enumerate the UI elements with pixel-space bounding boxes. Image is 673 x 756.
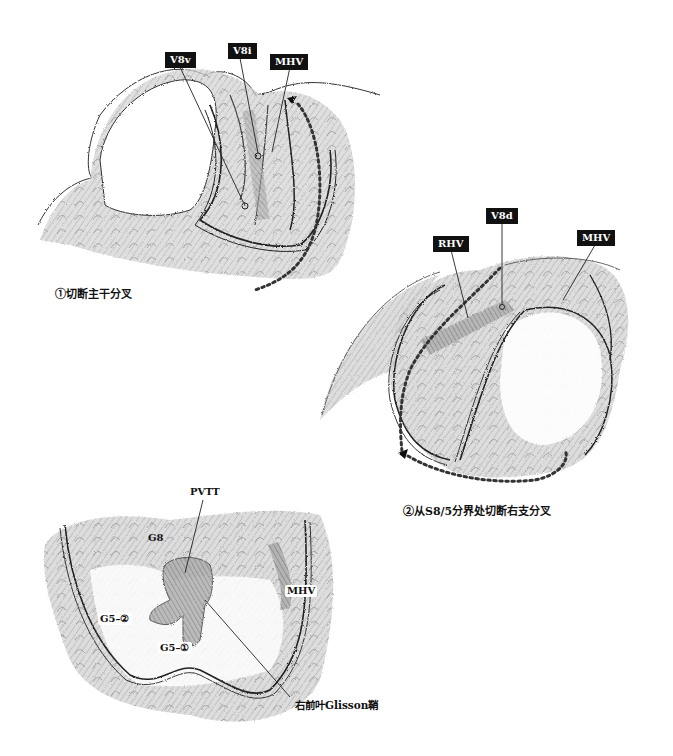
figure3-drawing — [44, 511, 333, 722]
label-mhv-fig2: MHV — [577, 230, 615, 246]
label-mhv-fig1: MHV — [270, 54, 308, 70]
label-v8v: V8v — [165, 52, 196, 68]
figure2-caption: ②从S8/5分界处切断右支分叉 — [403, 502, 551, 518]
label-mhv-fig3: MHV — [285, 585, 317, 597]
label-glisson-sheath: 右前叶Glisson鞘 — [295, 697, 378, 712]
label-g5-1: G5–① — [158, 642, 192, 654]
label-v8i: V8i — [228, 43, 257, 59]
label-g8: G8 — [148, 532, 164, 544]
label-v8d: V8d — [486, 208, 518, 224]
label-pvtt: PVTT — [190, 486, 220, 498]
figure2-drawing — [320, 256, 628, 478]
label-g5-2: G5–② — [98, 613, 132, 625]
figure1-caption: ①切断主干分叉 — [55, 285, 132, 301]
label-rhv: RHV — [433, 236, 469, 252]
figure1-drawing — [38, 69, 380, 279]
illustration-canvas — [0, 0, 673, 756]
